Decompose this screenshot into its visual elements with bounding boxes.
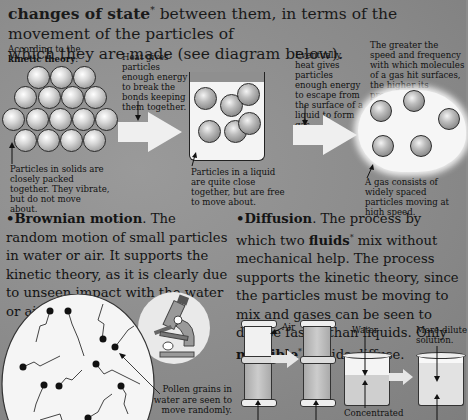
liquid-caption: Particles in a liquid are quite close to… [191, 167, 291, 207]
dilute-pointer-arrow [434, 346, 440, 382]
liquid-pointer-arrow [190, 152, 198, 166]
air-label: Air [282, 322, 295, 332]
changes-of-state-term: changes of state [8, 4, 150, 23]
fluids-term: fluids [309, 233, 350, 248]
concentrated-label: Concentrated [344, 408, 403, 418]
diffusion-term: Diffusion [244, 211, 312, 226]
heat-caption: Heat gives particles enough energy to br… [122, 52, 190, 112]
gas-cloud [358, 90, 466, 172]
pollen-caption: Pollen grains in water are seen to move … [140, 384, 232, 416]
liquid-beaker [189, 72, 265, 161]
brownian-motion-term: Brownian motion [14, 211, 142, 226]
solid-pointer-arrow [8, 142, 18, 166]
jar-mix-arrow [271, 350, 301, 368]
beaker-mix-arrow [389, 369, 415, 385]
beaker-dilute [418, 355, 464, 406]
kinetic-theory-caption: According to the kinetic theory: [8, 44, 118, 64]
solid-particles [0, 66, 120, 156]
jar2-pointer-arrow [313, 400, 319, 420]
solid-to-liquid-arrow [118, 112, 184, 152]
water-pointer-arrow [362, 336, 368, 376]
gas-pointer-arrow [366, 164, 376, 178]
jar1-pointer-arrow [255, 400, 261, 420]
brownian-motion-diagram [0, 294, 160, 420]
liquid-to-gas-arrow [293, 115, 359, 155]
concentrated-pointer-arrow [362, 380, 368, 408]
water-label: Water [352, 325, 378, 335]
dilute-bottom-pointer-arrow [434, 394, 440, 420]
solid-caption: Particles in solids are closely packed t… [10, 164, 110, 214]
dilute-label: More dilute solution. [416, 325, 468, 345]
